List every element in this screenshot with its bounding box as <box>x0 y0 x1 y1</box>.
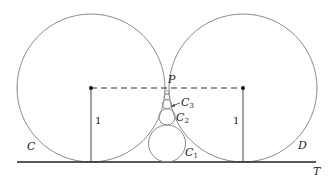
label-radius-left: 1 <box>95 115 101 126</box>
label-t: T <box>313 165 322 176</box>
circle-c2 <box>159 109 175 125</box>
center-dot-left <box>89 86 93 90</box>
label-c2: C2 <box>176 111 189 125</box>
label-p: P <box>167 73 176 86</box>
label-d: D <box>297 139 307 152</box>
label-c3: C3 <box>181 96 194 110</box>
center-dot-right <box>241 86 245 90</box>
circle-c4 <box>164 94 170 100</box>
circle-c1 <box>149 125 186 162</box>
diagram-svg: P C D T 1 1 C1 C2 C3 <box>0 0 331 176</box>
label-radius-right: 1 <box>233 115 239 126</box>
diagram-canvas: P C D T 1 1 C1 C2 C3 <box>0 0 331 176</box>
label-c: C <box>27 140 36 153</box>
circle-c3 <box>162 100 171 109</box>
label-c1: C1 <box>185 146 198 160</box>
